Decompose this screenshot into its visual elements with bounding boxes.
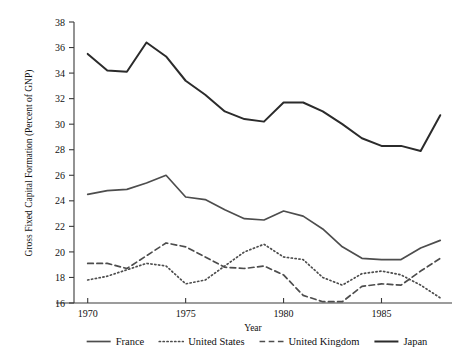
legend-label-japan: Japan xyxy=(403,336,428,347)
figure-background xyxy=(0,0,469,363)
chart-figure: 161820222426283032343638 197019751980198… xyxy=(0,0,469,363)
legend-label-france: France xyxy=(116,336,145,347)
x-tick-label: 1970 xyxy=(78,308,98,319)
y-tick-label: 20 xyxy=(55,247,65,258)
legend-label-united-kingdom: United Kingdom xyxy=(289,336,360,347)
y-tick-label: 26 xyxy=(55,170,65,181)
x-tick-label: 1980 xyxy=(274,308,294,319)
y-tick-label: 34 xyxy=(55,68,65,79)
y-tick-label: 22 xyxy=(55,221,65,232)
y-tick-label: 36 xyxy=(55,42,65,53)
x-tick-label: 1985 xyxy=(371,308,391,319)
y-tick-label: 32 xyxy=(55,93,65,104)
x-axis-title: Year xyxy=(244,323,262,333)
y-tick-label: 16 xyxy=(55,298,65,309)
y-tick-label: 28 xyxy=(55,144,65,155)
y-axis-title: Gross Fixed Capital Formation (Percent o… xyxy=(24,70,35,257)
y-tick-label: 30 xyxy=(55,119,65,130)
x-tick-label: 1975 xyxy=(176,308,196,319)
legend-label-united-states: United States xyxy=(188,336,244,347)
y-tick-label: 18 xyxy=(55,272,65,283)
y-tick-label: 38 xyxy=(55,17,65,28)
y-tick-label: 24 xyxy=(55,195,65,206)
